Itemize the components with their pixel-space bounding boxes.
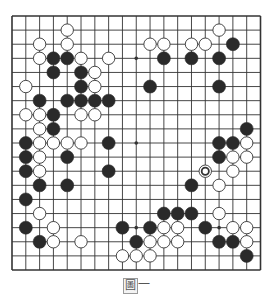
white-stone xyxy=(47,137,59,149)
white-stone xyxy=(130,250,142,262)
white-stone xyxy=(75,109,87,121)
black-stone xyxy=(171,207,184,220)
white-stone xyxy=(33,165,45,177)
star-point xyxy=(134,141,138,145)
black-stone xyxy=(75,94,88,107)
black-stone xyxy=(88,94,101,107)
black-stone xyxy=(47,122,60,135)
black-stone xyxy=(240,249,253,262)
black-stone xyxy=(144,221,157,234)
black-stone xyxy=(130,235,143,248)
white-stone xyxy=(227,221,239,233)
white-stone xyxy=(61,137,73,149)
black-stone xyxy=(19,221,32,234)
black-stone xyxy=(19,193,32,206)
white-stone xyxy=(116,250,128,262)
white-stone xyxy=(33,52,45,64)
white-stone xyxy=(199,38,211,50)
black-stone xyxy=(47,52,60,65)
black-stone xyxy=(226,235,239,248)
black-stone xyxy=(75,66,88,79)
black-stone xyxy=(213,80,226,93)
black-stone xyxy=(102,165,115,178)
white-stone xyxy=(61,38,73,50)
white-stone xyxy=(213,24,225,36)
black-stone xyxy=(157,52,170,65)
white-stone xyxy=(158,236,170,248)
white-stone xyxy=(171,236,183,248)
black-stone xyxy=(47,108,60,121)
black-stone xyxy=(19,165,32,178)
white-stone xyxy=(158,38,170,50)
black-stone xyxy=(75,80,88,93)
black-stone xyxy=(33,235,46,248)
figure-caption: 圖一 xyxy=(0,275,273,295)
black-stone xyxy=(185,52,198,65)
black-stone xyxy=(226,136,239,149)
white-stone xyxy=(240,236,252,248)
white-stone xyxy=(89,80,101,92)
black-stone xyxy=(19,151,32,164)
black-stone xyxy=(33,179,46,192)
white-stone xyxy=(227,151,239,163)
black-stone xyxy=(213,136,226,149)
white-stone xyxy=(144,250,156,262)
white-stone xyxy=(33,123,45,135)
star-point xyxy=(134,57,138,61)
black-stone xyxy=(102,136,115,149)
star-point xyxy=(134,226,138,230)
black-stone xyxy=(116,221,129,234)
caption-figure-label: 圖 xyxy=(123,278,138,294)
black-stone xyxy=(61,151,74,164)
black-stone xyxy=(61,94,74,107)
white-stone xyxy=(144,236,156,248)
black-stone xyxy=(144,80,157,93)
black-stone xyxy=(185,207,198,220)
white-stone xyxy=(33,151,45,163)
white-stone xyxy=(158,221,170,233)
black-stone xyxy=(185,179,198,192)
white-stone xyxy=(75,52,87,64)
white-stone xyxy=(213,207,225,219)
white-stone xyxy=(61,24,73,36)
black-stone xyxy=(61,52,74,65)
white-stone xyxy=(33,109,45,121)
black-stone xyxy=(19,136,32,149)
white-stone xyxy=(89,66,101,78)
caption-figure-number: 一 xyxy=(138,278,150,292)
white-stone xyxy=(75,137,87,149)
black-stone xyxy=(61,179,74,192)
white-stone xyxy=(75,236,87,248)
black-stone xyxy=(157,207,170,220)
black-stone xyxy=(102,94,115,107)
white-stone xyxy=(102,52,114,64)
black-stone xyxy=(33,94,46,107)
white-stone xyxy=(47,236,59,248)
star-point xyxy=(217,226,221,230)
white-stone xyxy=(213,179,225,191)
go-board xyxy=(0,0,273,275)
white-stone xyxy=(20,109,32,121)
black-stone xyxy=(240,122,253,135)
white-stone xyxy=(240,137,252,149)
white-stone xyxy=(185,38,197,50)
white-stone xyxy=(227,165,239,177)
white-stone xyxy=(33,137,45,149)
black-stone xyxy=(226,38,239,51)
black-stone xyxy=(47,66,60,79)
white-stone xyxy=(47,221,59,233)
black-stone xyxy=(213,52,226,65)
white-stone xyxy=(240,151,252,163)
white-stone xyxy=(144,38,156,50)
go-board-diagram xyxy=(0,0,273,275)
black-stone xyxy=(199,221,212,234)
black-stone xyxy=(213,151,226,164)
white-stone xyxy=(171,221,183,233)
white-stone xyxy=(89,109,101,121)
black-stone xyxy=(213,235,226,248)
white-stone xyxy=(20,80,32,92)
white-stone xyxy=(33,207,45,219)
white-stone xyxy=(33,38,45,50)
white-stone xyxy=(240,221,252,233)
